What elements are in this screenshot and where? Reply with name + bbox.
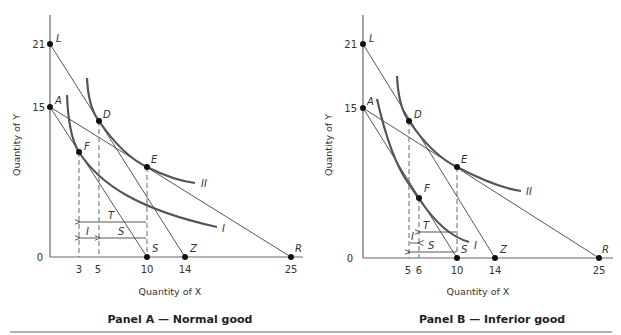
- total-effect-label: T: [423, 220, 430, 231]
- panel-a-title: Panel A — Normal good: [108, 313, 253, 326]
- point-d: [96, 118, 102, 124]
- point-e: [144, 164, 150, 170]
- label-s: S: [152, 243, 159, 254]
- label-z: Z: [189, 243, 198, 254]
- label-e: E: [461, 154, 468, 165]
- point-r: [288, 254, 294, 260]
- total-effect-label: T: [108, 210, 115, 221]
- panel-b: T I S L A D F E S Z R II I 21 15 0 5 6 1…: [323, 15, 613, 326]
- label-curve-ii: II: [201, 178, 207, 189]
- label-f: F: [84, 141, 90, 152]
- y-tick-21: 21: [344, 39, 357, 50]
- label-z: Z: [499, 244, 508, 255]
- point-l: [360, 41, 366, 47]
- x-tick-14: 14: [489, 265, 502, 276]
- x-tick-3: 3: [76, 264, 82, 275]
- budget-line-as: [363, 108, 457, 258]
- x-tick-5: 5: [95, 264, 101, 275]
- x-tick-6: 6: [416, 265, 422, 276]
- income-effect-label: I: [411, 231, 414, 242]
- point-r: [596, 255, 602, 261]
- substitution-effect-label: S: [428, 240, 435, 251]
- x-tick-10: 10: [141, 264, 154, 275]
- income-effect-label: I: [86, 226, 89, 237]
- label-d: D: [103, 109, 111, 120]
- point-z: [182, 254, 188, 260]
- x-tick-25: 25: [593, 265, 606, 276]
- point-f: [76, 149, 82, 155]
- x-axis-label: Quantity of X: [447, 286, 510, 297]
- indifference-curve-i: [67, 95, 217, 227]
- point-f: [416, 195, 422, 201]
- x-tick-10: 10: [451, 265, 464, 276]
- point-s: [454, 255, 460, 261]
- label-curve-i: I: [222, 223, 225, 234]
- indifference-curve-ii: [87, 78, 195, 183]
- panel-b-title: Panel B — Inferior good: [419, 313, 565, 326]
- point-l: [47, 41, 53, 47]
- point-a: [360, 105, 366, 111]
- y-tick-15: 15: [344, 103, 357, 114]
- label-f: F: [424, 183, 430, 194]
- label-d: D: [414, 109, 422, 120]
- y-tick-21: 21: [32, 39, 45, 50]
- label-r: R: [602, 244, 609, 255]
- figure: T S I L A D F E S Z R II I 21 15 0 3 5 1…: [0, 0, 621, 335]
- substitution-effect-label: S: [118, 226, 125, 237]
- label-r: R: [295, 243, 302, 254]
- x-tick-25: 25: [285, 264, 298, 275]
- point-z: [492, 255, 498, 261]
- label-curve-ii: II: [526, 186, 532, 197]
- point-e: [454, 164, 460, 170]
- x-tick-14: 14: [179, 264, 192, 275]
- indifference-curve-ii: [397, 76, 521, 191]
- label-a: A: [366, 96, 374, 107]
- label-s: S: [461, 244, 468, 255]
- origin-label: 0: [37, 252, 43, 263]
- y-tick-15: 15: [32, 102, 45, 113]
- panel-a: T S I L A D F E S Z R II I 21 15 0 3 5 1…: [11, 15, 303, 326]
- point-d: [406, 118, 412, 124]
- y-axis-label: Quantity of Y: [11, 114, 22, 176]
- label-a: A: [54, 95, 62, 106]
- label-l: L: [369, 33, 375, 44]
- label-curve-i: I: [474, 240, 477, 251]
- x-axis-label: Quantity of X: [139, 286, 202, 297]
- point-s: [144, 254, 150, 260]
- y-axis-label: Quantity of Y: [323, 114, 334, 176]
- point-a: [47, 104, 53, 110]
- origin-label: 0: [347, 253, 353, 264]
- x-tick-5: 5: [405, 265, 411, 276]
- label-e: E: [151, 154, 158, 165]
- label-l: L: [56, 33, 62, 44]
